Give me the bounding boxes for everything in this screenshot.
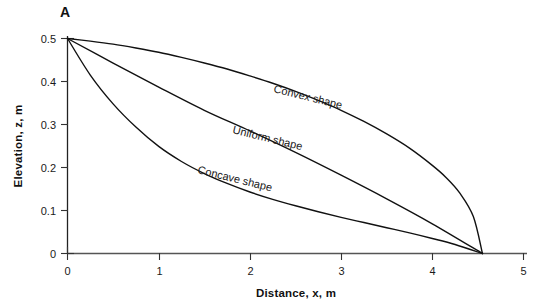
x-tick-label: 2 [247, 265, 253, 277]
y-tick-label: 0.2 [41, 162, 56, 174]
curve-label-uniform-shape: Uniform shape [232, 123, 304, 152]
y-tick-label: 0.1 [41, 205, 56, 217]
x-axis-ticks: 0 1 2 3 4 5 [64, 247, 526, 277]
y-tick-label: 0.4 [41, 76, 56, 88]
x-tick-label: 0 [64, 265, 70, 277]
curve-label-concave-shape: Concave shape [197, 163, 274, 193]
x-tick-label: 3 [338, 265, 344, 277]
panel-label-a: A [60, 4, 70, 20]
y-tick-label: 0 [50, 248, 56, 260]
x-tick-label: 1 [156, 265, 162, 277]
curve-convex-shape [68, 39, 483, 254]
curve-label-convex-shape: Convex shape [273, 82, 344, 111]
y-tick-label: 0.3 [41, 119, 56, 131]
figure-container: A 0 0.1 0.2 0.3 0.4 0.5 0 [0, 0, 539, 305]
curve-uniform-shape [68, 39, 483, 254]
elevation-profile-chart: A 0 0.1 0.2 0.3 0.4 0.5 0 [0, 0, 539, 305]
x-axis-title: Distance, x, m [256, 287, 336, 299]
y-tick-label: 0.5 [41, 33, 56, 45]
y-axis-ticks: 0 0.1 0.2 0.3 0.4 0.5 [41, 33, 74, 260]
x-tick-label: 4 [429, 265, 435, 277]
y-axis-title: Elevation, z, m [12, 105, 24, 188]
curve-concave-shape [68, 39, 483, 254]
x-tick-label: 5 [520, 265, 526, 277]
